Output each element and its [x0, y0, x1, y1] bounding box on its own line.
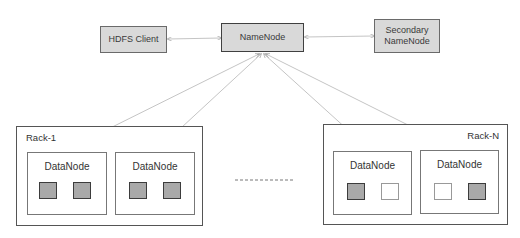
datanode-label: DataNode: [334, 160, 411, 171]
datanode-label: DataNode: [28, 161, 106, 172]
rack-1-datanode-2: DataNode: [115, 152, 195, 215]
datanode-label: DataNode: [116, 161, 194, 172]
rack-1-label: Rack-1: [26, 132, 56, 143]
edge-client-namenode: [168, 38, 221, 39]
secondary-namenode-node: Secondary NameNode: [374, 19, 440, 53]
rack-1-datanode-1: DataNode: [27, 152, 107, 215]
data-block-filled: [163, 182, 181, 199]
rack-n-label: Rack-N: [467, 130, 499, 141]
namenode-node: NameNode: [221, 23, 304, 52]
data-block-filled: [73, 182, 91, 199]
secondary-namenode-label-2: NameNode: [384, 36, 430, 47]
edge-namenode-secondary: [305, 36, 374, 37]
hdfs-client-label: HDFS Client: [108, 34, 158, 45]
namenode-label: NameNode: [240, 32, 286, 43]
hdfs-client-node: HDFS Client: [100, 26, 167, 53]
rack-n-datanode-1: DataNode: [333, 151, 412, 215]
rack-1: Rack-1 DataNode DataNode: [16, 126, 203, 226]
rack-n-datanode-2: DataNode: [420, 150, 499, 214]
rack-n: Rack-N DataNode DataNode: [323, 124, 508, 225]
data-block-filled: [39, 182, 57, 199]
data-block-empty: [434, 183, 452, 200]
datanode-label: DataNode: [421, 159, 498, 170]
data-block-filled: [129, 182, 147, 199]
data-block-empty: [381, 183, 399, 200]
data-block-filled: [347, 183, 365, 200]
data-block-filled: [468, 183, 486, 200]
secondary-namenode-label-1: Secondary: [385, 25, 428, 36]
